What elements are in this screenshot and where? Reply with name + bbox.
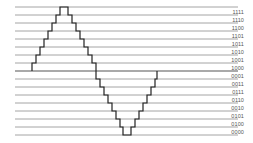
quantization-diagram — [0, 0, 253, 143]
level-label: 0011 — [222, 81, 244, 87]
level-label: 0001 — [222, 73, 244, 79]
level-label: 1010 — [222, 49, 244, 55]
level-label: 1100 — [222, 25, 244, 31]
level-label: 1111 — [222, 9, 244, 15]
level-lines — [15, 7, 238, 135]
level-label: 0101 — [222, 113, 244, 119]
level-label: 1001 — [222, 57, 244, 63]
level-label: 1101 — [222, 33, 244, 39]
level-label: 0010 — [222, 105, 244, 111]
level-label: 0111 — [222, 89, 244, 95]
level-label: 0110 — [222, 97, 244, 103]
level-label: 1011 — [222, 41, 244, 47]
level-label: 0000 — [222, 129, 244, 135]
level-label: 0100 — [222, 121, 244, 127]
level-label: 1110 — [222, 17, 244, 23]
level-label: 1000 — [222, 65, 244, 71]
